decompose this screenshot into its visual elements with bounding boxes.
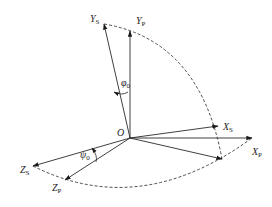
dashed-arc-upper	[104, 24, 222, 159]
axis-label-xp: XP	[251, 146, 262, 159]
axis-label-xs: XS	[222, 121, 233, 134]
axis-label-ys: YS	[90, 13, 100, 26]
axis-vector-aux	[130, 138, 222, 159]
coordinate-rotation-diagram: YSYPXSXPZSZP φ0ψ0 O	[0, 0, 272, 207]
axis-label-zs: ZS	[20, 164, 30, 177]
angle-arc-phi	[114, 92, 128, 94]
axis-label-zp: ZP	[52, 182, 62, 195]
axis-vector-zp	[65, 138, 130, 180]
angle-labels-group: φ0ψ0	[80, 77, 131, 162]
axis-vector-xs	[130, 126, 218, 138]
angle-label-phi-bottom: ψ0	[80, 149, 90, 162]
labels-group: YSYPXSXPZSZP	[20, 13, 262, 195]
dashed-arc-lower	[33, 138, 252, 187]
axes-group	[33, 24, 252, 180]
origin-label: O	[117, 127, 124, 138]
axis-label-yp: YP	[136, 15, 146, 28]
angle-label-phi-top: φ0	[121, 77, 131, 90]
